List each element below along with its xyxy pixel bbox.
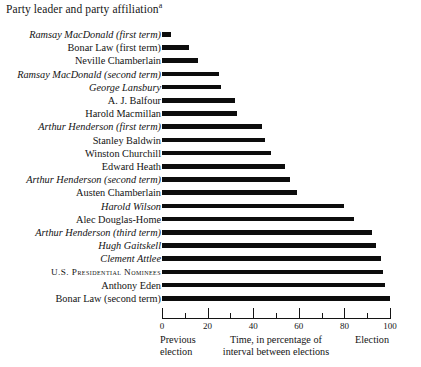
bar-track [162,98,390,103]
bar-label: Bonar Law (first term) [0,42,161,53]
bar-track [162,45,390,50]
axis-tick-minor [230,313,231,319]
bar-label: Clement Attlee [0,253,161,264]
bar-row: Austen Chamberlain [0,187,421,200]
bar-fill [162,124,262,129]
bar-track [162,111,390,116]
bar-fill [162,164,285,169]
axis-tick-major [344,308,345,319]
bar-track [162,164,390,169]
bar-label: Bonar Law (second term) [0,293,161,304]
chart-title-footnote-marker: a [159,1,163,10]
bar-row: Bonar Law (second term) [0,293,421,306]
bar-fill [162,256,381,261]
bar-label: Harold Macmillan [0,108,161,119]
bar-row: Alec Douglas-Home [0,214,421,227]
bar-track [162,138,390,143]
bar-track [162,270,390,275]
bar-row: A. J. Balfour [0,95,421,108]
bar-label: Alec Douglas-Home [0,214,161,225]
axis-label-previous-election: Previous election [160,334,196,357]
bar-fill [162,177,290,182]
axis-tick-minor [322,313,323,319]
bar-row: Winston Churchill [0,148,421,161]
axis-tick-label: 80 [340,321,349,331]
bar-row: Arthur Henderson (first term) [0,121,421,134]
bar-fill [162,72,219,77]
axis-label-election: Election [355,334,389,346]
axis-label-previous-election-line1: Previous [160,334,196,346]
bar-label: A. J. Balfour [0,95,161,106]
bar-fill [162,283,385,288]
bar-row: Ramsay MacDonald (first term) [0,29,421,42]
bar-fill [162,85,221,90]
axis-tick-label: 40 [249,321,258,331]
axis-label-previous-election-line2: election [160,346,196,358]
axis-label-election-line1: Election [355,334,389,346]
bar-label: Neville Chamberlain [0,55,161,66]
bar-label: Ramsay MacDonald (first term) [0,29,161,40]
bar-fill [162,98,235,103]
bar-track [162,58,390,63]
bar-track [162,72,390,77]
bar-row: Harold Wilson [0,201,421,214]
bar-label: Arthur Henderson (second term) [0,174,161,185]
bar-track [162,204,390,209]
bar-row: Neville Chamberlain [0,55,421,68]
axis-title-line1: Time, in percentage of [223,334,329,346]
bar-label: Austen Chamberlain [0,187,161,198]
bar-row: Ramsay MacDonald (second term) [0,69,421,82]
bar-track [162,124,390,129]
axis-tick-major [208,308,209,319]
bar-track [162,151,390,156]
bar-track [162,256,390,261]
chart-title-text: Party leader and party affiliation [6,3,159,15]
bar-fill [162,58,198,63]
bar-row: George Lansbury [0,82,421,95]
bar-label: Ramsay MacDonald (second term) [0,69,161,80]
bar-fill [162,217,354,222]
bar-label: Arthur Henderson (first term) [0,121,161,132]
bar-fill [162,296,390,301]
bar-row: Bonar Law (first term) [0,42,421,55]
bar-track [162,230,390,235]
bar-track [162,177,390,182]
bar-row: U.S. Presidential Nominees [0,267,421,280]
bar-row: Clement Attlee [0,253,421,266]
bar-row: Harold Macmillan [0,108,421,121]
bar-row: Stanley Baldwin [0,135,421,148]
bar-fill [162,204,344,209]
bar-row: Hugh Gaitskell [0,240,421,253]
bar-fill [162,230,372,235]
bar-fill [162,270,383,275]
bar-fill [162,190,297,195]
x-axis: Previous election Time, in percentage of… [0,306,421,367]
bar-label: George Lansbury [0,82,161,93]
bar-track [162,243,390,248]
bar-label: Winston Churchill [0,148,161,159]
plot-area: Ramsay MacDonald (first term)Bonar Law (… [0,24,421,306]
bar-row: Edward Heath [0,161,421,174]
axis-tick-label: 20 [203,321,212,331]
bar-label: Hugh Gaitskell [0,240,161,251]
bar-track [162,32,390,37]
axis-tick-major [299,308,300,319]
chart-title: Party leader and party affiliationa [6,3,162,15]
bar-row: Anthony Eden [0,280,421,293]
bar-fill [162,32,171,37]
axis-tick-minor [185,313,186,319]
bar-track [162,296,390,301]
axis-tick-major [162,308,163,319]
bar-track [162,85,390,90]
bar-track [162,283,390,288]
axis-tick-label: 100 [383,321,397,331]
axis-tick-major [253,308,254,319]
axis-tick-label: 60 [294,321,303,331]
bar-label: Edward Heath [0,161,161,172]
axis-tick-label: 0 [160,321,165,331]
bar-row: Arthur Henderson (second term) [0,174,421,187]
axis-tick-major [390,308,391,319]
axis-title: Time, in percentage of interval between … [223,334,329,357]
axis-tick-minor [276,313,277,319]
bar-fill [162,45,189,50]
